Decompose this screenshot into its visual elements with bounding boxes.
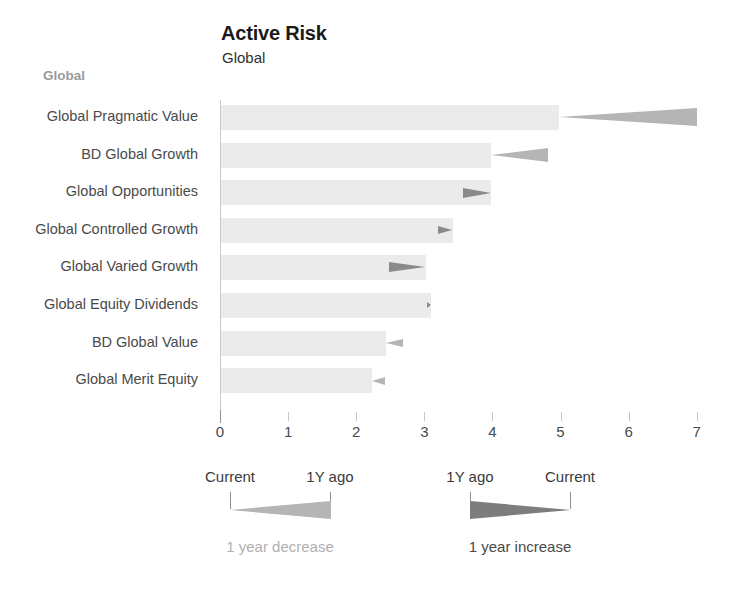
bar-3 bbox=[221, 180, 491, 205]
category-label-text: Global Opportunities bbox=[0, 183, 209, 199]
change-arrow-4-increase bbox=[438, 226, 452, 234]
group-label: Global bbox=[43, 68, 85, 83]
change-arrow-6-increase bbox=[427, 302, 431, 308]
x-tick-2 bbox=[356, 412, 357, 421]
bar-2 bbox=[221, 143, 491, 168]
category-label-text: Global Controlled Growth bbox=[0, 221, 209, 237]
change-arrow-1-decrease bbox=[559, 108, 697, 126]
category-label-text: Global Equity Dividends bbox=[0, 296, 209, 312]
x-tick-4 bbox=[492, 412, 493, 421]
change-arrow-5-increase bbox=[389, 262, 425, 272]
x-tick-label-1: 1 bbox=[268, 423, 308, 440]
x-tick-3 bbox=[424, 412, 425, 421]
bar-4 bbox=[221, 218, 453, 243]
legend-increase-arrow-icon bbox=[470, 501, 571, 519]
x-tick-label-5: 5 bbox=[541, 423, 581, 440]
bar-8 bbox=[221, 368, 372, 393]
category-label-text: BD Global Value bbox=[0, 334, 209, 350]
change-arrow-2-decrease bbox=[491, 148, 548, 162]
bar-7 bbox=[221, 331, 386, 356]
x-tick-1 bbox=[288, 412, 289, 421]
x-tick-label-6: 6 bbox=[609, 423, 649, 440]
category-label-text: Global Merit Equity bbox=[0, 371, 209, 387]
x-tick-label-0: 0 bbox=[200, 423, 240, 440]
bar-6 bbox=[221, 293, 431, 318]
x-tick-5 bbox=[561, 412, 562, 421]
x-tick-0 bbox=[220, 410, 221, 423]
legend-decrease-caption: 1 year decrease bbox=[160, 538, 400, 555]
legend-increase-right-label: Current bbox=[510, 468, 630, 485]
x-tick-7 bbox=[697, 412, 698, 421]
page-title: Active Risk bbox=[221, 22, 327, 45]
x-tick-6 bbox=[629, 412, 630, 421]
change-arrow-8-decrease bbox=[372, 377, 385, 385]
x-tick-label-3: 3 bbox=[404, 423, 444, 440]
category-label-text: BD Global Growth bbox=[0, 146, 209, 162]
x-tick-label-2: 2 bbox=[336, 423, 376, 440]
legend-increase-caption: 1 year increase bbox=[400, 538, 640, 555]
category-label-text: Global Varied Growth bbox=[0, 258, 209, 274]
plot-area bbox=[220, 100, 700, 410]
active-risk-chart: Active Risk Global Global Global Pragmat… bbox=[0, 0, 741, 590]
x-tick-label-4: 4 bbox=[472, 423, 512, 440]
category-label-text: Global Pragmatic Value bbox=[0, 108, 209, 124]
legend-decrease-arrow-icon bbox=[230, 501, 331, 519]
change-arrow-3-increase bbox=[463, 188, 491, 198]
x-tick-label-7: 7 bbox=[677, 423, 717, 440]
chart-subtitle: Global bbox=[222, 49, 265, 66]
legend-decrease-right-label: 1Y ago bbox=[270, 468, 390, 485]
change-arrow-7-decrease bbox=[386, 339, 403, 347]
bar-1 bbox=[221, 105, 559, 130]
